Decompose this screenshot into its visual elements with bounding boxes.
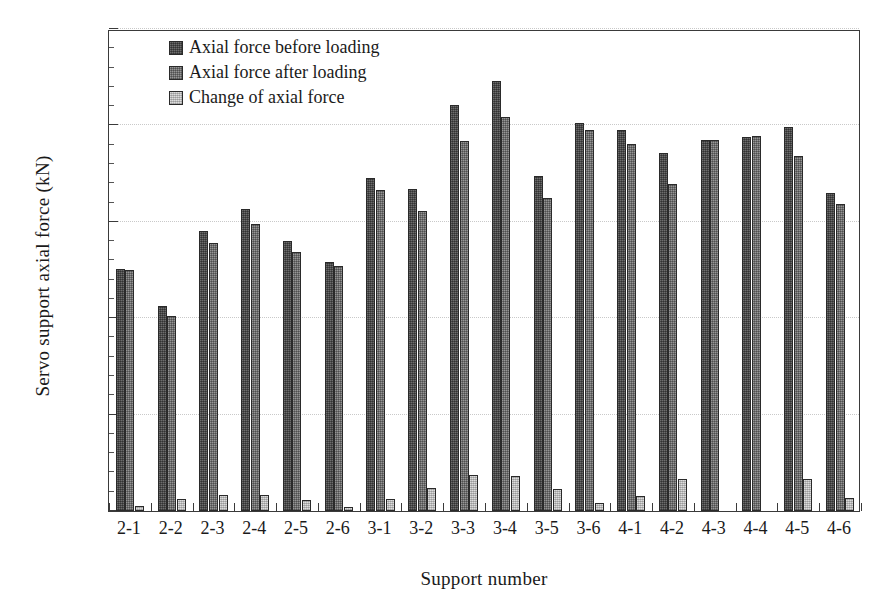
y-tick-minor	[109, 86, 114, 87]
bar-group	[492, 31, 520, 511]
bar	[659, 153, 668, 511]
bar	[585, 130, 594, 511]
bar	[241, 209, 250, 511]
bar	[125, 270, 134, 511]
y-tick-minor	[109, 240, 114, 241]
x-tick	[318, 503, 319, 511]
y-tick-major	[109, 28, 118, 29]
y-tick-minor	[109, 182, 114, 183]
bar	[668, 184, 677, 511]
legend-swatch-icon	[169, 41, 183, 55]
x-tick	[443, 503, 444, 511]
bar	[167, 316, 176, 511]
bar	[534, 176, 543, 511]
bar	[701, 140, 710, 511]
bar	[260, 495, 269, 511]
legend-label: Axial force after loading	[189, 60, 366, 85]
x-tick-label: 3-5	[526, 518, 568, 539]
bar	[710, 140, 719, 511]
legend-swatch-icon	[169, 91, 183, 105]
bar-group	[659, 31, 687, 511]
x-tick-label: 4-2	[651, 518, 693, 539]
legend-label: Axial force before loading	[189, 35, 379, 60]
bar	[334, 266, 343, 511]
x-tick	[610, 503, 611, 511]
bar	[344, 507, 353, 511]
y-tick-minor	[109, 259, 114, 260]
x-axis-title: Support number	[108, 568, 860, 590]
x-tick-label: 2-2	[150, 518, 192, 539]
x-tick	[819, 503, 820, 511]
bar	[794, 156, 803, 511]
legend-item: Axial force before loading	[169, 35, 379, 60]
y-tick-minor	[109, 491, 114, 492]
x-tick-label: 2-3	[192, 518, 234, 539]
y-tick-minor	[109, 163, 114, 164]
x-tick	[736, 503, 737, 511]
x-tick	[193, 503, 194, 511]
bar	[543, 198, 552, 511]
y-tick-minor	[109, 452, 114, 453]
x-tick-label: 4-1	[609, 518, 651, 539]
x-tick	[234, 503, 235, 511]
gridline	[109, 28, 859, 29]
chart-legend: Axial force before loadingAxial force af…	[169, 35, 379, 110]
x-tick-label: 3-2	[400, 518, 442, 539]
bar	[427, 488, 436, 511]
bar	[752, 136, 761, 511]
legend-swatch-icon	[169, 66, 183, 80]
x-tick	[777, 503, 778, 511]
x-tick-label: 3-4	[484, 518, 526, 539]
bar	[678, 479, 687, 511]
x-tick	[527, 503, 528, 511]
y-tick-minor	[109, 47, 114, 48]
bar-group	[116, 31, 144, 511]
bar	[283, 241, 292, 511]
y-tick-minor	[109, 394, 114, 395]
bar	[575, 123, 584, 511]
legend-item: Axial force after loading	[169, 60, 379, 85]
y-tick-minor	[109, 375, 114, 376]
bar-group	[701, 31, 729, 511]
bar	[219, 495, 228, 511]
y-tick-minor	[109, 67, 114, 68]
x-tick	[401, 503, 402, 511]
bar	[116, 269, 125, 511]
x-tick-label: 4-4	[735, 518, 777, 539]
bar	[553, 489, 562, 511]
bar-group	[534, 31, 562, 511]
bar	[386, 499, 395, 511]
bar	[177, 499, 186, 511]
x-tick	[861, 503, 862, 511]
bar	[209, 243, 218, 511]
bar	[408, 189, 417, 511]
y-tick-minor	[109, 471, 114, 472]
bar	[460, 141, 469, 511]
bar	[617, 130, 626, 511]
bar	[251, 224, 260, 511]
y-tick-minor	[109, 279, 114, 280]
x-tick-label: 3-6	[568, 518, 610, 539]
x-tick-label: 2-1	[108, 518, 150, 539]
x-tick-label: 2-5	[275, 518, 317, 539]
y-tick-minor	[109, 356, 114, 357]
x-tick-label: 4-6	[818, 518, 860, 539]
bar	[450, 105, 459, 511]
x-tick-label: 3-3	[442, 518, 484, 539]
x-tick-label: 4-5	[776, 518, 818, 539]
bar-group	[450, 31, 478, 511]
bar	[826, 193, 835, 511]
bar	[135, 506, 144, 511]
bar-group	[617, 31, 645, 511]
legend-item: Change of axial force	[169, 85, 379, 110]
bar	[292, 252, 301, 511]
bar-group	[784, 31, 812, 511]
bar	[501, 117, 510, 511]
y-tick-minor	[109, 202, 114, 203]
bar-group	[575, 31, 603, 511]
bar	[469, 475, 478, 511]
x-tick	[485, 503, 486, 511]
x-tick	[569, 503, 570, 511]
bar	[492, 81, 501, 511]
y-axis-title: Servo support axial force (kN)	[32, 111, 54, 441]
